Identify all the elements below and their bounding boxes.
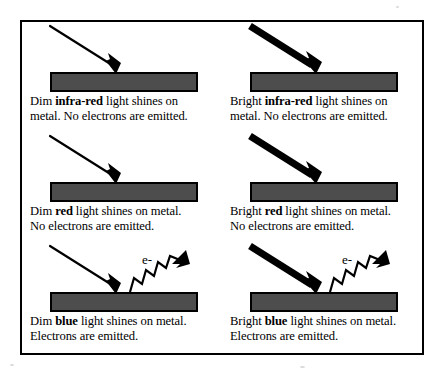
caption-line-2: Electrons are emitted.: [30, 329, 226, 344]
emitted-electron-arrow: e-: [330, 250, 390, 292]
caption-intensity-text: Dim: [30, 314, 55, 328]
scan-speck: [10, 364, 14, 366]
caption-line-1-tail: light shines on metal.: [287, 314, 396, 328]
metal-plate: [250, 292, 398, 312]
light-beam-bright: [250, 26, 322, 74]
figure-panel: Dim infra-red light shines onmetal. No e…: [20, 20, 424, 355]
diagram-cell-dim-blue: e-Dim blue light shines on metal.Electro…: [30, 244, 222, 354]
diagram-dim-infra-red: [30, 24, 222, 96]
caption-line-2: No electrons are emitted.: [230, 219, 426, 234]
scan-speck: [396, 6, 399, 8]
caption-intensity-text: Dim: [30, 204, 55, 218]
caption-line-1-tail: light shines on metal.: [78, 314, 187, 328]
caption-intensity-text: Bright: [230, 94, 265, 108]
metal-plate: [50, 182, 198, 202]
diagram-dim-blue: e-: [30, 244, 222, 316]
caption-dim-infra-red: Dim infra-red light shines onmetal. No e…: [30, 94, 226, 124]
light-beam-dim: [50, 246, 121, 294]
diagram-cell-dim-red: Dim red light shines on metal.No electro…: [30, 134, 222, 244]
diagram-grid: Dim infra-red light shines onmetal. No e…: [22, 22, 422, 353]
diagram-bright-blue: e-: [230, 244, 422, 316]
diagram-bright-infra-red: [230, 24, 422, 96]
caption-line-1: Bright infra-red light shines on: [230, 94, 426, 109]
caption-line-1: Dim red light shines on metal.: [30, 204, 226, 219]
caption-bright-infra-red: Bright infra-red light shines onmetal. N…: [230, 94, 426, 124]
metal-plate: [250, 182, 398, 202]
caption-colour-word: infra-red: [265, 94, 313, 108]
caption-line-1: Dim blue light shines on metal.: [30, 314, 226, 329]
light-beam-bright: [250, 246, 322, 294]
caption-intensity-text: Bright: [230, 204, 265, 218]
caption-line-1-tail: light shines on metal.: [73, 204, 182, 218]
scan-speck: [300, 366, 305, 368]
electron-label: e-: [142, 252, 152, 267]
diagram-cell-bright-red: Bright red light shines on metal.No elec…: [230, 134, 422, 244]
diagram-bright-red: [230, 134, 422, 206]
caption-bright-blue: Bright blue light shines on metal.Electr…: [230, 314, 426, 344]
metal-plate: [50, 292, 198, 312]
caption-intensity-text: Dim: [30, 94, 55, 108]
caption-colour-word: blue: [265, 314, 288, 328]
diagram-dim-red: [30, 134, 222, 206]
caption-line-1-tail: light shines on metal.: [282, 204, 391, 218]
diagram-cell-bright-blue: e-Bright blue light shines on metal.Elec…: [230, 244, 422, 354]
metal-plate: [50, 72, 198, 92]
caption-line-2: metal. No electrons are emitted.: [30, 109, 226, 124]
caption-dim-blue: Dim blue light shines on metal.Electrons…: [30, 314, 226, 344]
caption-line-2: No electrons are emitted.: [30, 219, 226, 234]
caption-colour-word: red: [265, 204, 283, 218]
caption-line-1: Bright blue light shines on metal.: [230, 314, 426, 329]
caption-dim-red: Dim red light shines on metal.No electro…: [30, 204, 226, 234]
light-beam-dim: [50, 136, 121, 184]
diagram-cell-bright-infra-red: Bright infra-red light shines onmetal. N…: [230, 24, 422, 134]
caption-colour-word: infra-red: [55, 94, 103, 108]
diagram-cell-dim-infra-red: Dim infra-red light shines onmetal. No e…: [30, 24, 222, 134]
caption-line-2: metal. No electrons are emitted.: [230, 109, 426, 124]
electron-label: e-: [342, 252, 352, 267]
caption-line-1-tail: light shines on: [312, 94, 387, 108]
caption-line-1-tail: light shines on: [103, 94, 178, 108]
light-beam-dim: [50, 26, 121, 74]
caption-intensity-text: Bright: [230, 314, 265, 328]
caption-colour-word: blue: [55, 314, 78, 328]
caption-line-1: Bright red light shines on metal.: [230, 204, 426, 219]
caption-bright-red: Bright red light shines on metal.No elec…: [230, 204, 426, 234]
light-beam-bright: [250, 136, 322, 184]
emitted-electron-arrow: e-: [130, 250, 190, 292]
caption-line-1: Dim infra-red light shines on: [30, 94, 226, 109]
caption-line-2: Electrons are emitted.: [230, 329, 426, 344]
caption-colour-word: red: [55, 204, 73, 218]
metal-plate: [250, 72, 398, 92]
